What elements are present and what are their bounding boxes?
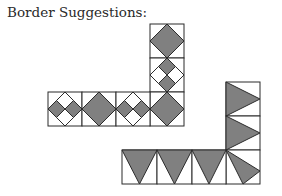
diamond-border: [48, 24, 184, 126]
block-triangle-down: [192, 150, 226, 184]
block-large-diamond: [82, 92, 116, 126]
block-triangle-right: [226, 116, 260, 150]
block-triangle-down: [157, 150, 192, 184]
block-large-diamond-corner: [150, 92, 184, 126]
block-four-diamonds: [150, 58, 184, 92]
block-triangle-right: [226, 82, 260, 116]
border-diagram: [0, 0, 282, 196]
block-four-diamonds: [116, 92, 150, 126]
block-triangle-corner: [226, 150, 260, 184]
block-four-diamonds: [48, 92, 82, 126]
block-large-diamond: [150, 24, 184, 58]
block-triangle-down: [122, 150, 157, 184]
